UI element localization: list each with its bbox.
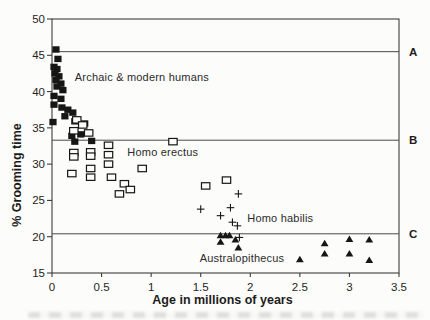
reference-line-label-a: A <box>409 46 417 58</box>
point-archaic-modern-humans <box>88 138 95 144</box>
x-tick-label: 2 <box>233 280 267 294</box>
series-label-australopithecus: Australopithecus <box>200 252 285 264</box>
point-homo-erectus <box>86 174 94 180</box>
y-tick-label: 20 <box>19 230 45 244</box>
point-archaic-modern-humans <box>69 109 76 115</box>
point-australopithecus <box>365 236 373 243</box>
point-homo-erectus <box>104 142 112 148</box>
grooming-time-scatter-figure: % Grooming time Age in millions of years… <box>0 0 430 320</box>
point-archaic-modern-humans <box>50 93 57 99</box>
y-tick-label: 25 <box>19 193 45 207</box>
x-tick-label: 1.5 <box>184 280 218 294</box>
reference-line-label-b: B <box>409 134 417 146</box>
x-tick-label: 0.5 <box>85 280 119 294</box>
point-homo-erectus <box>138 165 146 171</box>
point-homo-erectus <box>126 186 134 192</box>
point-homo-erectus <box>84 130 92 136</box>
y-axis-title: % Grooming time <box>10 123 24 226</box>
point-homo-erectus <box>107 174 115 180</box>
point-homo-erectus <box>104 152 112 158</box>
y-tick-label: 30 <box>19 157 45 171</box>
point-archaic-modern-humans <box>54 56 61 62</box>
point-australopithecus <box>321 250 329 256</box>
point-australopithecus <box>296 256 304 263</box>
point-archaic-modern-humans <box>61 113 68 119</box>
cropped-caption-artifact <box>28 312 424 318</box>
y-tick-label: 35 <box>19 121 45 135</box>
point-archaic-modern-humans <box>57 96 64 102</box>
point-homo-erectus <box>79 122 87 128</box>
x-tick-label: 2.5 <box>283 280 317 294</box>
x-tick-label: 1 <box>134 280 168 294</box>
point-homo-erectus <box>70 128 78 134</box>
point-homo-erectus <box>68 170 76 176</box>
point-australopithecus <box>217 238 225 245</box>
point-archaic-modern-humans <box>50 101 57 107</box>
point-homo-erectus <box>115 191 123 197</box>
series-label-homo-erectus: Homo erectus <box>127 146 198 158</box>
scatter-plot-canvas <box>0 0 430 320</box>
series-label-archaic-modern-humans: Archaic & modern humans <box>75 71 209 83</box>
point-homo-erectus <box>104 161 112 167</box>
point-homo-erectus <box>201 183 209 189</box>
x-tick-label: 3 <box>332 280 366 294</box>
point-homo-erectus <box>169 138 177 144</box>
x-axis-title: Age in millions of years <box>152 293 292 307</box>
point-homo-erectus <box>222 177 230 183</box>
x-tick-label: 0 <box>35 280 69 294</box>
y-tick-label: 40 <box>19 85 45 99</box>
point-australopithecus <box>346 250 354 256</box>
reference-line-label-c: C <box>409 228 417 240</box>
series-label-homo-habilis: Homo habilis <box>247 212 313 224</box>
y-tick-label: 45 <box>19 48 45 62</box>
point-australopithecus <box>234 244 242 251</box>
point-australopithecus <box>365 256 373 263</box>
point-homo-erectus <box>70 154 78 160</box>
y-tick-label: 15 <box>19 266 45 280</box>
point-archaic-modern-humans <box>71 138 78 144</box>
point-archaic-modern-humans <box>49 119 56 125</box>
point-homo-erectus <box>86 165 94 171</box>
y-tick-label: 50 <box>19 12 45 26</box>
x-tick-label: 3.5 <box>382 280 416 294</box>
point-archaic-modern-humans <box>59 87 66 93</box>
point-archaic-modern-humans <box>52 46 59 52</box>
point-homo-erectus <box>86 153 94 159</box>
point-australopithecus <box>321 240 329 247</box>
point-australopithecus <box>346 235 354 242</box>
